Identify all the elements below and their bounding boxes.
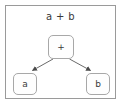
tree-node-operand-b[interactable]: b — [86, 73, 110, 95]
tree-node-operator[interactable]: + — [48, 35, 74, 59]
tree-node-operand-a[interactable]: a — [13, 73, 37, 95]
diagram-canvas: a + b + a b — [0, 0, 122, 106]
diagram-title: a + b — [5, 11, 116, 23]
